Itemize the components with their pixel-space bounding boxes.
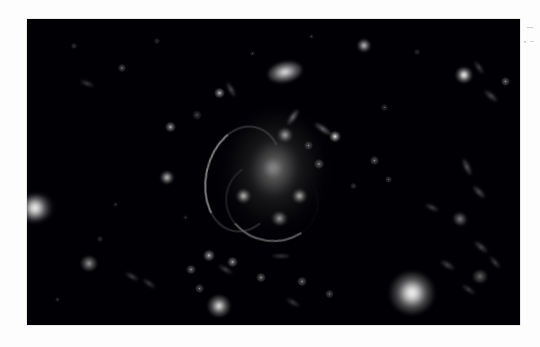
galaxy-cluster-plate — [27, 19, 520, 325]
margin-mark-0 — [527, 27, 533, 28]
margin-mark-1 — [530, 41, 534, 42]
figure-page — [0, 0, 540, 347]
sky-background — [27, 19, 520, 325]
margin-mark-2 — [524, 41, 526, 43]
